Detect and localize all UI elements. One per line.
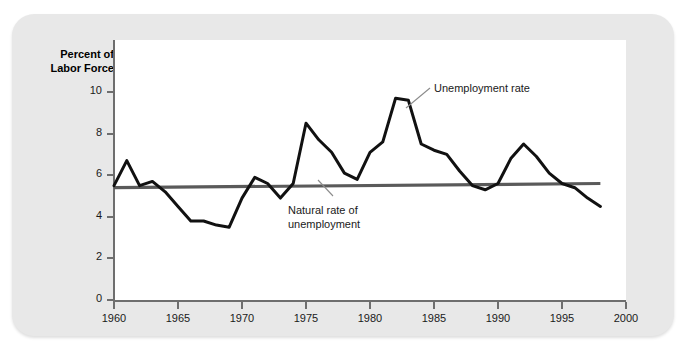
natural-rate-annotation-line2: unemployment — [288, 217, 360, 231]
chart-svg — [0, 0, 692, 357]
natural-rate-leader-line — [318, 180, 333, 196]
natural-rate-annotation-line1: Natural rate of — [288, 203, 360, 217]
natural-rate-annotation: Natural rate of unemployment — [288, 203, 360, 231]
unemployment-leader-line — [406, 88, 430, 108]
natural-rate-line — [114, 184, 600, 188]
chart-figure: Percent of Labor Force 02468101960196519… — [0, 0, 692, 357]
unemployment-annotation: Unemployment rate — [434, 81, 530, 95]
